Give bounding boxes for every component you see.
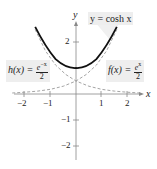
y-axis-arrow-icon [74, 21, 78, 26]
f-den: 2 [134, 73, 143, 81]
h-annotation-lhs: h(x) = [8, 64, 36, 75]
h-annotation: h(x) = e−x2 [6, 60, 50, 82]
y-tick-label-2: 2 [65, 37, 70, 46]
f-annotation: f(x) = ex2 [106, 60, 144, 82]
y-axis-label: y [73, 10, 77, 20]
cosh-annotation: y = cosh x [88, 12, 133, 25]
h-fraction: e−x2 [36, 61, 48, 81]
f-num-exp: x [138, 61, 141, 67]
f-annotation-lhs: f(x) = [108, 64, 134, 75]
y-tick-label-minus2: −2 [61, 141, 71, 150]
y-tick-label-minus1: −1 [61, 115, 71, 124]
h-den: 2 [36, 73, 48, 81]
cosh-annotation-text: y = cosh x [90, 13, 131, 24]
x-tick-label-minus2: −2 [17, 99, 27, 108]
x-axis-label: x [146, 89, 150, 99]
f-fraction: ex2 [134, 61, 143, 81]
x-tick-label-minus1: −1 [43, 99, 53, 108]
chart-plot [0, 0, 157, 169]
h-num-exp: −x [40, 61, 46, 67]
x-tick-label-1: 1 [99, 99, 104, 108]
x-tick-label-2: 2 [125, 99, 130, 108]
